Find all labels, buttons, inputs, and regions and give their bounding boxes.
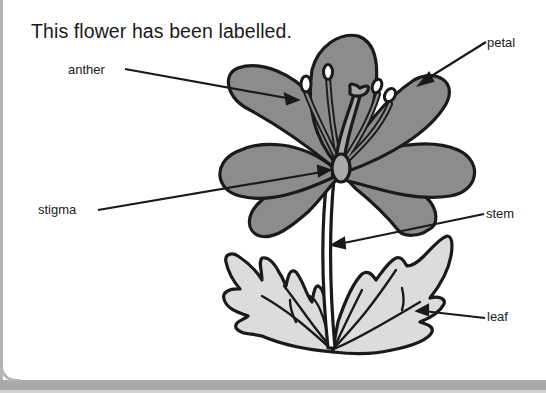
petal-pointer: [425, 42, 486, 80]
stem: [323, 178, 335, 348]
label-petal: petal: [487, 35, 515, 50]
label-stigma: stigma: [38, 202, 76, 217]
label-stem: stem: [486, 206, 514, 221]
label-leaf: leaf: [487, 309, 508, 324]
ovary: [332, 154, 350, 182]
leaf-right: [333, 236, 452, 354]
label-anther: anther: [68, 62, 105, 77]
flower-diagram: [0, 0, 546, 393]
anther: [301, 76, 311, 92]
